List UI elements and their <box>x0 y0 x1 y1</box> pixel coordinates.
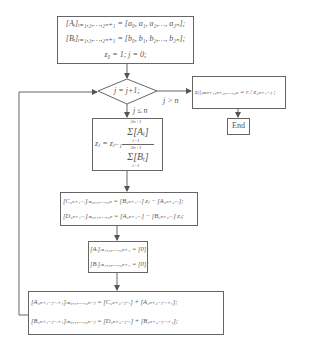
zero-line-2: [Bᵢ]ᵢ₌₁,₂,…,₂ₙ₊₁ = [0]; <box>90 259 148 269</box>
sum-lower-limit-bottom: i=1 <box>124 163 148 169</box>
yes-branch-label: j ≤ n <box>133 106 148 116</box>
update-line-1: [A₂ₙ₊₁₋ⱼ₋ᵢ₊₁]ᵢ₌₀,₁,…,₂ₙ₋ⱼ = [C₂ₙ₊₂₋ⱼ₋ᵢ] … <box>31 297 178 307</box>
sum-upper-limit-top: 2n+1 <box>124 119 148 125</box>
init-line-3: z₀ = 1; j = 0; <box>59 50 192 60</box>
no-branch-label: j > n <box>163 96 179 106</box>
decision-label: j = j+1; <box>104 86 150 96</box>
update-line-2: [B₂ₙ₊₁₋ⱼ₋ᵢ₊₁]ᵢ₌₀,₁,…,₂ₙ₋ⱼ = [D₂ₙ₊₂₋ⱼ₋ᵢ] … <box>31 316 178 326</box>
zero-line-1: [Aᵢ]ᵢ₌₁,₂,…,₂ₙ₊₁ = [0]; <box>90 244 148 254</box>
result-formula: zⱼ|ⱼ₌ₙ₊₁,ₙ₊₂,…,₂ₙ = r / z₂ₙ₊₁₋ⱼ ; <box>195 87 276 97</box>
init-line-1: [Aᵢ]ᵢ₌₁,₂,…,₂ₙ₊₁ = [a₀, a₁, a₂,…, a₂ₙ]; <box>59 19 192 29</box>
cd-line-1: [C₂ₙ₊₁₋ᵢ]ᵢ₌₀,₁,…,₂ₙ = [B₂ₙ₊₁₋ᵢ] zⱼ − [A₂… <box>63 196 183 206</box>
sum-denominator: Σ[Bᵢ] <box>122 151 154 162</box>
init-line-2: [Bᵢ]ᵢ₌₁,₂,…,₂ₙ₊₁ = [b₀, b₁, b₂,…, b₂ₙ]; <box>59 34 192 44</box>
end-label: End <box>227 121 250 131</box>
sum-lhs: zⱼ = zⱼ₋₁ <box>95 139 122 149</box>
sum-numerator: Σ[Aᵢ] <box>122 126 154 137</box>
sum-lower-limit-top: i=1 <box>124 138 148 144</box>
cd-line-2: [D₂ₙ₊₁₋ᵢ]ᵢ₌₀,₁,…,₂ₙ = [A₂ₙ₊₁₋ᵢ] − [B₂ₙ₊₂… <box>63 211 184 221</box>
